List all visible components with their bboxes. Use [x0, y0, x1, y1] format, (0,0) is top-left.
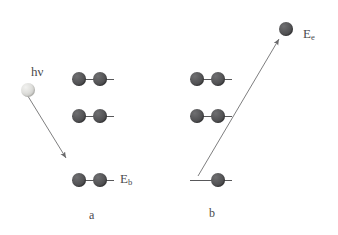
- ejected-electron: [279, 22, 293, 36]
- incident-photon-arrow: [26, 93, 66, 158]
- electron: [190, 109, 204, 123]
- photon-sphere: [21, 83, 35, 97]
- electron: [72, 109, 86, 123]
- electron: [190, 72, 204, 86]
- electron: [93, 72, 107, 86]
- ejected-electron-arrow: [198, 39, 279, 176]
- electron: [211, 173, 225, 187]
- electron: [72, 173, 86, 187]
- kinetic-energy-label: Ee: [303, 27, 315, 42]
- electron: [72, 72, 86, 86]
- electron: [93, 109, 107, 123]
- panel-a-caption: a: [89, 209, 94, 221]
- photoemission-diagram: hν Eb a Ee b: [0, 0, 338, 235]
- binding-energy-label: Eb: [120, 172, 132, 187]
- hv-label: hν: [31, 65, 43, 78]
- electron: [211, 72, 225, 86]
- panel-b-caption: b: [209, 207, 215, 219]
- electron: [93, 173, 107, 187]
- electron: [211, 109, 225, 123]
